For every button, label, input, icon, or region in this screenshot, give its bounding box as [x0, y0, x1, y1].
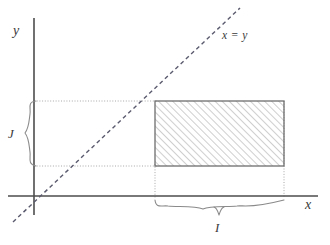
horizontal-brace-i-tip — [214, 207, 224, 215]
math-diagram-figure: y x x = y J I — [0, 0, 330, 245]
hatched-rectangle-fill — [155, 101, 284, 166]
x-axis-label: x — [305, 198, 311, 212]
interval-j-label: J — [8, 127, 14, 140]
hatched-rectangle-group — [155, 101, 284, 166]
diagonal-line-label: x = y — [222, 30, 248, 42]
interval-i-label: I — [215, 221, 219, 234]
y-axis-label: y — [13, 24, 19, 38]
horizontal-brace-i — [155, 200, 284, 209]
diagram-canvas — [0, 0, 330, 245]
